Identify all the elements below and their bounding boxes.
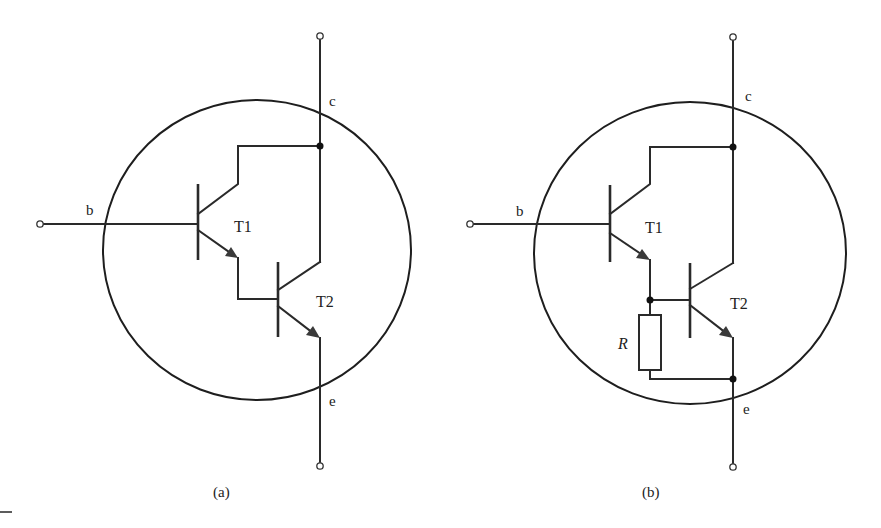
resistor-r [639,300,733,379]
t1-emitter-arrow-icon [225,247,238,258]
label-b-b: b [516,203,524,219]
t2-emitter-lead [690,305,726,333]
t2-emitter-arrow-icon [306,326,320,338]
label-c-b: c [745,88,752,104]
junction-dot [730,144,737,151]
panel-b: c b e T1 T2 R (b) [467,34,846,501]
terminal-e-a [317,463,323,469]
label-t2-b: T2 [730,295,748,312]
transistor-t2-a [278,262,320,338]
t1-emitter-lead [198,230,232,254]
t2-emitter-arrow-icon [719,326,733,338]
label-t1-b: T1 [645,219,663,236]
transistor-t2-b [690,263,733,338]
darlington-diagram: c b e T1 T2 (a) [0,0,881,528]
label-e-a: e [329,393,336,409]
t1-to-t2-base-wire [650,260,690,300]
label-r: R [617,335,628,352]
transistor-t1-a [198,146,320,299]
terminal-e-b [730,464,736,470]
label-e-b: e [743,401,750,417]
panel-a: c b e T1 T2 (a) [37,33,411,501]
junction-dot [317,143,324,150]
t2-emitter-lead [278,306,313,333]
label-c-a: c [329,93,336,109]
junction-dot [647,297,654,304]
t2-collector-lead [278,262,320,290]
terminal-b-a [37,221,43,227]
t2-collector-lead [690,263,733,289]
terminal-b-b [467,221,473,227]
terminal-c-b [730,34,736,40]
resistor-bottom-lead [650,370,733,379]
t1-collector-lead [198,146,320,214]
t1-emitter-arrow-icon [636,249,650,260]
label-t2-a: T2 [316,293,334,310]
t1-collector-lead [610,147,733,214]
label-t1-a: T1 [234,218,252,235]
caption-a: (a) [213,484,230,501]
caption-b: (b) [642,484,660,501]
resistor-body [639,315,661,370]
t1-to-t2-base-wire [238,258,278,299]
t1-emitter-lead [610,233,644,256]
junction-dot [730,376,737,383]
label-b-a: b [86,202,94,218]
transistor-t1-b [610,147,733,300]
terminal-c-a [317,33,323,39]
